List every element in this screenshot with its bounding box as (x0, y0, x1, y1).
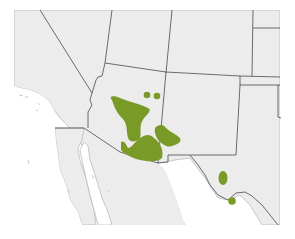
big-bend-range (228, 197, 236, 205)
northern-arizona-dot-2 (154, 93, 161, 100)
range-map (0, 0, 295, 239)
northern-arizona-dot-1 (144, 92, 151, 99)
west-texas-range (219, 171, 228, 185)
